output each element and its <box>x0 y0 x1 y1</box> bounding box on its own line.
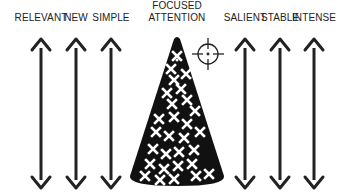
label-attention: ATTENTION <box>149 12 206 24</box>
arrow-new-icon <box>67 39 85 188</box>
label-salient: SALIENT <box>224 12 266 24</box>
label-intense: INTENSE <box>292 12 336 24</box>
arrow-relevant-icon <box>32 39 50 188</box>
arrow-stable-icon <box>271 39 289 188</box>
label-focused: FOCUSED <box>152 0 202 12</box>
label-new: NEW <box>64 12 88 24</box>
arrow-simple-icon <box>102 39 120 188</box>
label-relevant: RELEVANT <box>15 12 68 24</box>
attention-diagram <box>0 0 361 196</box>
crosshair-target-icon <box>192 38 224 70</box>
arrow-intense-icon <box>305 39 323 188</box>
label-simple: SIMPLE <box>92 12 129 24</box>
arrow-salient-icon <box>236 39 254 188</box>
